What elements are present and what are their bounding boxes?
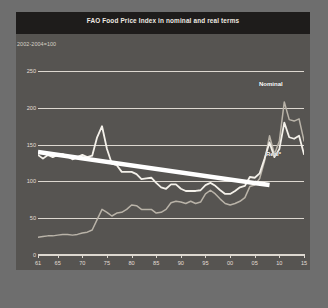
x-axis-tick: [107, 254, 108, 258]
series-label-real: Real*: [266, 151, 281, 157]
x-axis-tick-label: 65: [51, 260, 65, 266]
x-axis-tick-label: 15: [297, 260, 311, 266]
x-axis-tick: [279, 254, 280, 258]
x-axis-tick-label: 80: [125, 260, 139, 266]
x-axis-tick: [132, 254, 133, 258]
page-title: FAO Food Price Index in nominal and real…: [16, 17, 310, 24]
x-axis-tick: [255, 254, 256, 258]
x-axis-tick-label: 95: [198, 260, 212, 266]
chart-title-band: FAO Food Price Index in nominal and real…: [16, 12, 310, 34]
x-axis-tick: [82, 254, 83, 258]
y-axis-tick-label: 200: [27, 105, 36, 111]
series-label-nominal: Nominal: [259, 81, 283, 87]
x-axis-tick: [156, 254, 157, 258]
y-axis-tick-label: 100: [27, 178, 36, 184]
x-axis-tick-label: 70: [75, 260, 89, 266]
screenshot-frame: FAO Food Price Index in nominal and real…: [0, 0, 328, 308]
x-axis-tick-label: 61: [31, 260, 45, 266]
x-axis-tick-label: 05: [248, 260, 262, 266]
x-axis-tick: [230, 254, 231, 258]
x-axis-tick: [205, 254, 206, 258]
x-axis-tick-label: 85: [149, 260, 163, 266]
y-axis-tick-label: 50: [30, 215, 36, 221]
x-axis-tick-label: 90: [174, 260, 188, 266]
x-axis-tick-label: 10: [272, 260, 286, 266]
y-axis-labels: 050100150200250: [18, 60, 36, 255]
x-axis-tick: [181, 254, 182, 258]
footnote-band: * The real price index is the nominal pr…: [16, 270, 310, 300]
chart-series-layer: [38, 60, 304, 256]
x-axis-tick: [304, 254, 305, 258]
chart-subtitle: 2002-2004=100: [17, 41, 56, 47]
x-axis-tick: [58, 254, 59, 258]
y-axis-tick-label: 150: [27, 142, 36, 148]
y-axis-tick-label: 0: [33, 252, 36, 258]
y-axis-tick-label: 250: [27, 68, 36, 74]
x-axis-tick: [38, 254, 39, 258]
x-axis-tick-label: 00: [223, 260, 237, 266]
x-axis-tick-label: 75: [100, 260, 114, 266]
